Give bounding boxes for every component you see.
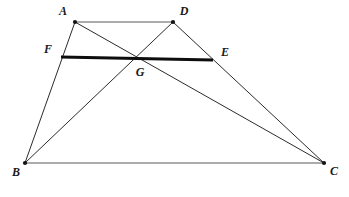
- geometry-figure: ADFEGBC: [0, 0, 349, 197]
- segment-dc: [173, 22, 324, 163]
- point-label-g: G: [136, 65, 145, 79]
- point-label-a: A: [58, 4, 67, 18]
- segment-fe: [61, 57, 213, 60]
- geometry-canvas: ADFEGBC: [0, 0, 349, 197]
- vertex-dot-a: [73, 20, 77, 24]
- vertex-dot-c: [322, 161, 326, 165]
- vertex-dot-b: [23, 161, 27, 165]
- point-label-layer: ADFEGBC: [11, 4, 339, 179]
- point-label-d: D: [179, 4, 189, 18]
- vertex-dot-d: [171, 20, 175, 24]
- point-label-b: B: [11, 165, 20, 179]
- segment-layer: [25, 22, 324, 163]
- point-label-f: F: [43, 42, 52, 56]
- point-label-e: E: [220, 45, 229, 59]
- point-label-c: C: [330, 164, 339, 178]
- segment-ac: [75, 22, 324, 163]
